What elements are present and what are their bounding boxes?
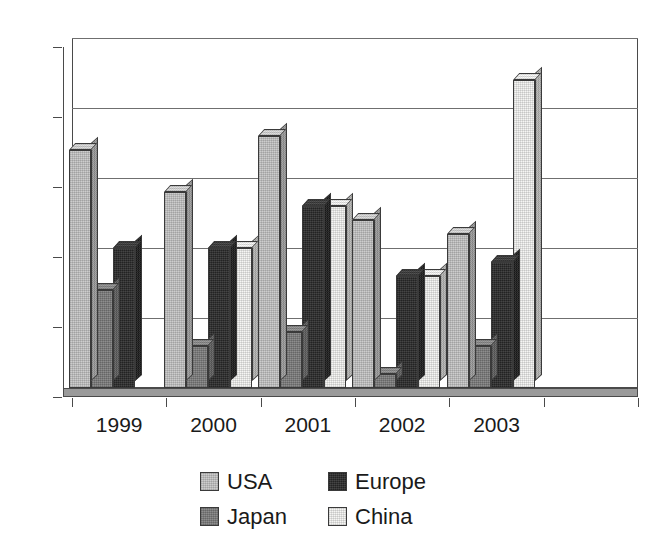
bar-front-face (69, 150, 91, 388)
bar-side-face (469, 221, 476, 381)
plot-floor (63, 388, 638, 397)
y-tick-mark-25 (53, 47, 62, 48)
legend-label-europe: Europe (355, 471, 426, 493)
gridline-15 (72, 178, 638, 179)
bar-side-face (418, 263, 425, 381)
y-tick-mark-10 (53, 257, 62, 258)
legend-swatch-usa-icon (200, 472, 219, 491)
x-tick-label-1999: 1999 (72, 414, 166, 435)
x-tick-mark-1 (166, 398, 167, 407)
bar-side-face (374, 207, 381, 381)
x-tick-label-2000: 2000 (166, 414, 260, 435)
bar-front-face (258, 136, 280, 388)
bar-chart: 0510152025 19992000200120022003 USAEurop… (0, 0, 668, 549)
y-tick-mark-0 (53, 397, 62, 398)
bar-side-face (91, 137, 98, 381)
bar-side-face (324, 193, 331, 381)
bar-front-face (447, 234, 469, 388)
bar-side-face (186, 179, 193, 381)
x-tick-label-2001: 2001 (261, 414, 355, 435)
bar-usa-2002 (352, 213, 374, 388)
legend-item-japan[interactable]: Japan (200, 506, 328, 528)
legend-row-1: JapanChina (200, 499, 490, 534)
legend-swatch-europe-icon (328, 472, 347, 491)
x-tick-mark-4 (449, 398, 450, 407)
x-tick-mark-6 (638, 398, 639, 407)
bar-front-face (164, 192, 186, 388)
chart-legend: USAEuropeJapanChina (200, 464, 490, 534)
bar-side-face (280, 123, 287, 381)
gridline-20 (72, 108, 638, 109)
bar-side-face (113, 277, 120, 381)
x-tick-mark-2 (261, 398, 262, 407)
bar-side-face (135, 235, 142, 381)
bar-usa-2001 (258, 129, 280, 388)
bar-usa-1999 (69, 143, 91, 388)
bar-front-face (352, 220, 374, 388)
x-tick-label-2002: 2002 (355, 414, 449, 435)
x-tick-label-2003: 2003 (449, 414, 543, 435)
legend-swatch-china-icon (328, 507, 347, 526)
y-tick-mark-20 (53, 117, 62, 118)
bar-usa-2003 (447, 227, 469, 388)
bar-usa-2000 (164, 185, 186, 388)
legend-row-0: USAEurope (200, 464, 490, 499)
x-tick-mark-5 (544, 398, 545, 407)
legend-swatch-japan-icon (200, 507, 219, 526)
x-tick-mark-0 (72, 398, 73, 407)
bar-side-face (535, 67, 542, 381)
legend-item-europe[interactable]: Europe (328, 471, 426, 493)
axis-3d-connectors (62, 37, 73, 48)
legend-item-china[interactable]: China (328, 506, 412, 528)
legend-label-china: China (355, 506, 412, 528)
bar-side-face (513, 249, 520, 381)
legend-label-usa: USA (227, 471, 272, 493)
legend-item-usa[interactable]: USA (200, 471, 328, 493)
x-tick-mark-3 (355, 398, 356, 407)
y-tick-mark-5 (53, 327, 62, 328)
plot-area: 0510152025 19992000200120022003 (72, 38, 638, 388)
legend-label-japan: Japan (227, 506, 287, 528)
bar-side-face (230, 235, 237, 381)
y-tick-mark-15 (53, 187, 62, 188)
gridline-25 (72, 38, 638, 39)
